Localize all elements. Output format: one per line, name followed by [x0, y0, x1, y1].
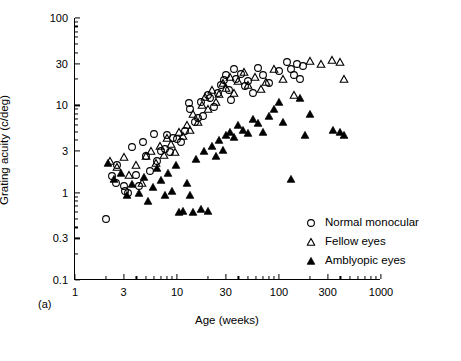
- y-minor-tick-mark: [75, 206, 78, 207]
- x-tick-label: 1000: [369, 279, 393, 298]
- data-point-open-triangle: [170, 148, 179, 157]
- y-minor-tick-mark: [75, 113, 78, 114]
- x-tick-label: 3: [121, 279, 127, 298]
- x-minor-tick-mark: [146, 276, 147, 279]
- data-point-filled-triangle: [305, 109, 314, 118]
- x-minor-tick-mark: [154, 276, 155, 279]
- y-tick-label: 3: [62, 145, 75, 157]
- data-point-filled-triangle: [244, 129, 253, 138]
- y-minor-tick-mark: [75, 131, 78, 132]
- data-point-open-circle: [150, 129, 159, 138]
- x-minor-tick-mark: [365, 276, 366, 279]
- x-minor-tick-mark: [309, 276, 310, 279]
- x-tick-label: 100: [270, 279, 288, 298]
- data-point-filled-triangle: [279, 117, 288, 126]
- x-minor-tick-mark: [238, 276, 239, 279]
- y-tick-label: 30: [56, 58, 75, 70]
- x-minor-tick-mark: [263, 276, 264, 279]
- data-point-filled-triangle: [134, 188, 143, 197]
- data-point-filled-triangle: [140, 173, 149, 182]
- y-tick-mark: [75, 105, 80, 106]
- data-point-filled-triangle: [301, 130, 310, 139]
- data-point-open-triangle: [234, 76, 243, 85]
- x-minor-tick-mark: [161, 276, 162, 279]
- y-minor-tick-mark: [75, 211, 78, 212]
- data-point-filled-triangle: [168, 186, 177, 195]
- panel-label: (a): [38, 298, 51, 310]
- legend-label: Normal monocular: [325, 213, 419, 232]
- data-point-open-triangle: [305, 57, 314, 66]
- y-tick-label: 0.3: [53, 232, 75, 244]
- x-minor-tick-mark: [350, 276, 351, 279]
- data-point-filled-triangle: [203, 206, 212, 215]
- data-point-filled-triangle: [259, 127, 268, 136]
- y-tick-mark: [75, 63, 80, 64]
- data-point-filled-triangle: [186, 190, 195, 199]
- data-point-open-triangle: [250, 73, 259, 82]
- x-axis-label: Age (weeks): [195, 314, 259, 326]
- x-tick-label: 30: [220, 279, 232, 298]
- x-tick-mark: [380, 274, 381, 279]
- y-tick-label: 100: [50, 12, 75, 24]
- x-tick-mark: [327, 274, 328, 279]
- legend-marker-open-circle: [307, 218, 316, 227]
- y-tick-mark: [75, 150, 80, 151]
- data-point-filled-triangle: [192, 155, 201, 164]
- data-point-open-triangle: [270, 65, 279, 74]
- y-minor-tick-mark: [75, 21, 78, 22]
- y-minor-tick-mark: [75, 37, 78, 38]
- x-minor-tick-mark: [105, 276, 106, 279]
- y-tick-label: 10: [56, 99, 75, 111]
- x-minor-tick-mark: [371, 276, 372, 279]
- x-minor-tick-mark: [167, 276, 168, 279]
- data-point-filled-triangle: [116, 168, 125, 177]
- data-point-filled-triangle: [218, 145, 227, 154]
- y-minor-tick-mark: [75, 218, 78, 219]
- y-minor-tick-mark: [75, 124, 78, 125]
- y-minor-tick-mark: [75, 227, 78, 228]
- y-minor-tick-mark: [75, 140, 78, 141]
- data-point-filled-triangle: [164, 168, 173, 177]
- x-minor-tick-mark: [340, 276, 341, 279]
- legend-marker-filled-triangle: [307, 256, 316, 265]
- y-minor-tick-mark: [75, 166, 78, 167]
- x-tick-mark: [278, 274, 279, 279]
- legend-marker-open-triangle: [307, 237, 316, 246]
- y-axis-label: Grating acuity (c/deg): [0, 95, 10, 205]
- x-tick-mark: [74, 274, 75, 279]
- data-point-filled-triangle: [103, 158, 112, 167]
- legend-label: Amblyopic eyes: [325, 251, 406, 270]
- data-point-open-triangle: [211, 97, 220, 106]
- data-point-open-triangle: [193, 117, 202, 126]
- y-minor-tick-mark: [75, 52, 78, 53]
- data-point-open-circle: [127, 143, 136, 152]
- legend-label: Fellow eyes: [325, 232, 386, 251]
- chart-figure: 0.10.3131030100 1310301003001000 Normal …: [0, 0, 461, 361]
- data-point-filled-triangle: [286, 174, 295, 183]
- y-tick-mark: [75, 238, 80, 239]
- x-minor-tick-mark: [269, 276, 270, 279]
- y-minor-tick-mark: [75, 78, 78, 79]
- y-minor-tick-mark: [75, 109, 78, 110]
- data-point-open-triangle: [159, 150, 168, 159]
- data-point-open-circle: [138, 138, 147, 147]
- data-point-open-triangle: [336, 58, 345, 67]
- y-tick-mark: [75, 17, 80, 18]
- y-minor-tick-mark: [75, 118, 78, 119]
- x-tick-mark: [225, 274, 226, 279]
- data-point-open-triangle: [119, 153, 128, 162]
- data-point-open-triangle: [262, 78, 271, 87]
- x-tick-label: 1: [72, 279, 78, 298]
- y-minor-tick-mark: [75, 26, 78, 27]
- data-point-filled-triangle: [122, 190, 131, 199]
- data-point-filled-triangle: [182, 178, 191, 187]
- y-tick-mark: [75, 192, 80, 193]
- x-tick-label: 10: [171, 279, 183, 298]
- x-minor-tick-mark: [376, 276, 377, 279]
- y-minor-tick-mark: [75, 44, 78, 45]
- data-point-filled-triangle: [229, 133, 238, 142]
- data-point-open-circle: [295, 75, 304, 84]
- x-tick-mark: [123, 274, 124, 279]
- data-point-filled-triangle: [179, 206, 188, 215]
- data-point-open-triangle: [125, 170, 134, 179]
